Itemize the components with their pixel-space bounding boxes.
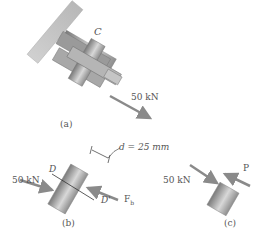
force-label-fb-subscript: b: [130, 199, 134, 206]
label-c: C: [94, 27, 102, 37]
caption-c: (c): [224, 219, 236, 228]
force-label-c-left: 50 kN: [163, 176, 191, 185]
force-label-b-left: 50 kN: [12, 176, 40, 185]
caption-a: (a): [60, 120, 72, 129]
mechanics-figure: C 50 kN (a) 50 kN D D' Fb d = 25 mm (b) …: [0, 0, 255, 237]
panel-c-bolt-section: [190, 165, 250, 216]
force-arrow-c-left: [190, 165, 217, 183]
force-arrow-c-right: [225, 174, 250, 186]
force-label-a: 50 kN: [131, 93, 159, 102]
force-label-fb: Fb: [124, 195, 134, 206]
dimension-label: d = 25 mm: [119, 143, 169, 152]
plane-label-d: D: [49, 165, 56, 174]
plane-label-d-prime: D': [101, 196, 111, 205]
force-label-p: P: [243, 164, 249, 173]
caption-b: (b): [62, 219, 75, 228]
dimension-line: [92, 150, 108, 158]
